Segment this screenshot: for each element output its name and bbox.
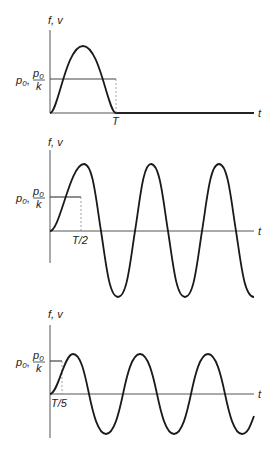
panel-2-y-label: f, v <box>48 136 64 148</box>
panel-2-x-label: t <box>258 225 262 237</box>
panel-1: f, v t T p0, p0 k <box>15 14 262 127</box>
panel-3: f, v t T/5 p0, p0 k <box>15 308 262 438</box>
svg-text:k: k <box>36 80 42 92</box>
svg-text:p0,: p0, <box>15 192 30 206</box>
panel-2-tick-label: T/2 <box>72 234 88 246</box>
panel-1-level-label: p0, p0 k <box>15 67 45 92</box>
svg-text:p0,: p0, <box>15 356 30 370</box>
svg-text:k: k <box>36 198 42 210</box>
panel-3-y-label: f, v <box>48 308 64 320</box>
svg-text:p0,: p0, <box>15 74 30 88</box>
panel-2-level-label: p0, p0 k <box>15 185 45 210</box>
svg-text:k: k <box>36 362 42 374</box>
svg-text:p0: p0 <box>32 349 44 363</box>
svg-text:p0: p0 <box>32 185 44 199</box>
panel-2: f, v t T/2 p0, p0 k <box>15 136 262 297</box>
svg-text:p0: p0 <box>32 67 44 81</box>
panel-3-tick-label: T/5 <box>51 397 68 409</box>
panel-3-level-label: p0, p0 k <box>15 349 45 374</box>
diagram-canvas: f, v t T p0, p0 k f, v t T/2 p0, p0 k <box>0 0 276 451</box>
panel-1-y-label: f, v <box>48 14 64 26</box>
panel-3-x-label: t <box>258 388 262 400</box>
panel-1-x-label: t <box>258 107 262 119</box>
panel-1-tick-label: T <box>112 115 120 127</box>
